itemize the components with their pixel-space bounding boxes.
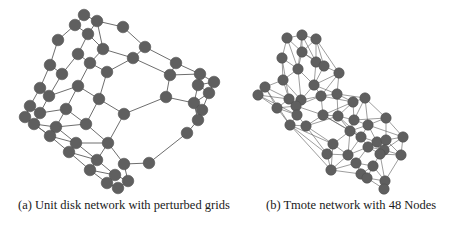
- graph-node: [396, 150, 406, 160]
- figure: (a) Unit disk network with perturbed gri…: [0, 0, 451, 227]
- graph-node: [278, 75, 288, 85]
- graph-node: [316, 91, 326, 101]
- graph-node: [322, 149, 332, 159]
- graph-node: [356, 132, 366, 142]
- graph-edge: [290, 125, 333, 144]
- graph-node: [272, 103, 282, 113]
- graph-node: [360, 93, 370, 103]
- graph-node: [334, 68, 344, 78]
- graph-node: [351, 158, 361, 168]
- graph-node: [368, 161, 378, 171]
- caption-a: (a) Unit disk network with perturbed gri…: [18, 198, 230, 213]
- graph-node: [398, 132, 408, 142]
- graph-node: [285, 120, 295, 130]
- graph-node: [277, 53, 287, 63]
- graph-node: [363, 120, 373, 130]
- graph-node: [282, 33, 292, 43]
- graph-node: [260, 82, 270, 92]
- graph-node: [379, 184, 389, 194]
- graph-node: [292, 110, 302, 120]
- graph-node: [332, 89, 342, 99]
- caption-b: (b) Tmote network with 48 Nodes: [266, 198, 436, 213]
- graph-node: [375, 149, 385, 159]
- tmote-network-graph: [0, 0, 451, 227]
- graph-node: [319, 61, 329, 71]
- graph-node: [297, 30, 307, 40]
- graph-node: [297, 47, 307, 57]
- graph-node: [326, 165, 336, 175]
- graph-node: [309, 80, 319, 90]
- graph-node: [363, 142, 373, 152]
- graph-node: [349, 115, 359, 125]
- graph-node: [318, 110, 328, 120]
- graph-node: [381, 113, 391, 123]
- graph-node: [343, 150, 353, 160]
- graph-node: [293, 64, 303, 74]
- graph-node: [333, 111, 343, 121]
- graph-node: [372, 137, 382, 147]
- graph-node: [381, 135, 391, 145]
- graph-node: [301, 121, 311, 131]
- graph-node: [311, 34, 321, 44]
- graph-node: [362, 173, 372, 183]
- graph-node: [348, 97, 358, 107]
- graph-node: [328, 139, 338, 149]
- graph-node: [253, 90, 263, 100]
- graph-node: [345, 126, 355, 136]
